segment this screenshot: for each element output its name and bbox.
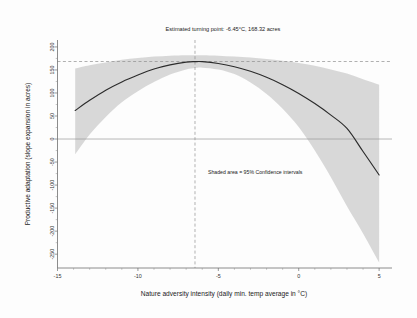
y-tick-label: 100 bbox=[49, 88, 55, 97]
y-tick-label: 150 bbox=[49, 65, 55, 74]
chart-title: Estimated turning point: -6.45°C, 168.32… bbox=[166, 26, 281, 32]
y-tick-label: -100 bbox=[49, 180, 55, 191]
x-axis-title: Nature adversity intensity (daily min. t… bbox=[141, 290, 307, 298]
x-tick-label: -15 bbox=[54, 273, 62, 279]
y-axis-title: Productive adaptation (slope expansion i… bbox=[24, 83, 32, 226]
x-tick-label: -5 bbox=[216, 273, 221, 279]
chart-canvas: Estimated turning point: -6.45°C, 168.32… bbox=[0, 0, 417, 318]
x-tick-label: 5 bbox=[378, 273, 381, 279]
x-tick-label: -10 bbox=[134, 273, 142, 279]
y-tick-label: -150 bbox=[49, 203, 55, 214]
y-tick-label: 50 bbox=[49, 113, 55, 119]
x-tick-label: 0 bbox=[297, 273, 300, 279]
y-tick-label: -200 bbox=[49, 226, 55, 237]
y-tick-label: -50 bbox=[49, 158, 55, 166]
y-tick-label: 200 bbox=[49, 42, 55, 51]
y-tick-label: 0 bbox=[49, 138, 55, 141]
y-tick-label: -250 bbox=[49, 249, 55, 260]
confidence-interval-note: Shaded area = 95% Confidence intervals bbox=[208, 169, 303, 175]
chart-figure: Estimated turning point: -6.45°C, 168.32… bbox=[0, 0, 417, 318]
